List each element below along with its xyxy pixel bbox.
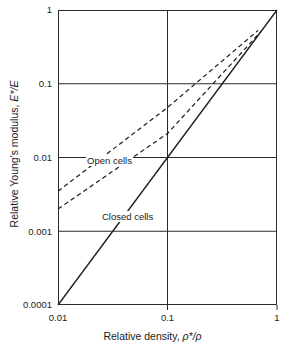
ytick-label-0.0001: 0.0001 <box>3 300 52 310</box>
y-axis-title: Relative Young's modulus, E*/E <box>8 54 20 254</box>
y-axis-title-text: Relative Young's modulus, <box>8 102 20 228</box>
series-open-cells-lower <box>58 33 260 210</box>
chart-figure: 1 0.1 0.01 0.001 0.0001 0.01 0.1 1 Open … <box>0 0 305 359</box>
xtick-label-0.01: 0.01 <box>38 313 78 323</box>
x-axis-title: Relative density, ρ*/ρ <box>0 330 305 342</box>
annotation-closed-cells: Closed cells <box>101 211 154 222</box>
x-axis-title-symbol: ρ*/ρ <box>183 330 202 342</box>
y-axis-title-symbol: E*/E <box>8 81 20 102</box>
x-axis-title-text: Relative density, <box>103 330 182 342</box>
series-open-cells-upper <box>58 31 258 192</box>
xtick-label-1: 1 <box>257 313 297 323</box>
x-tick-marks <box>168 305 278 310</box>
ytick-label-1: 1 <box>8 5 52 15</box>
xtick-label-0.1: 0.1 <box>148 313 188 323</box>
annotation-open-cells: Open cells <box>86 155 133 166</box>
